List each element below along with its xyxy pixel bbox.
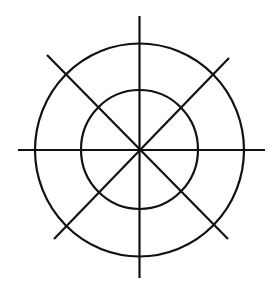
concentric-circles-diagram [0,0,279,289]
